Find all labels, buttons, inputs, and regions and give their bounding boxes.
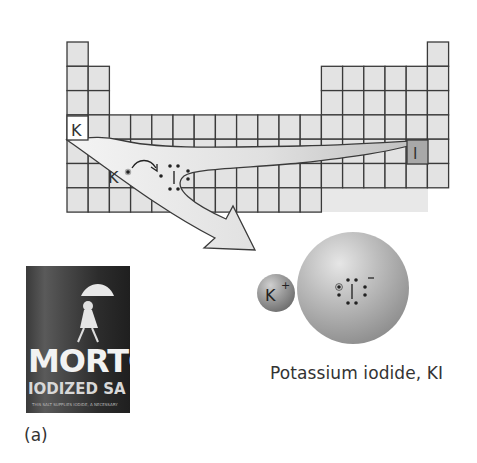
periodic-table-cell <box>67 42 88 66</box>
periodic-table-cell <box>385 66 406 90</box>
periodic-table-cell <box>385 164 406 188</box>
periodic-table-cell <box>364 66 385 90</box>
periodic-table-cell <box>364 115 385 139</box>
periodic-table-cell <box>343 164 364 188</box>
periodic-table-cell <box>385 115 406 139</box>
brand-subtitle: IODIZED SA <box>28 380 126 398</box>
periodic-table-cell <box>364 91 385 115</box>
periodic-table-cell <box>258 115 279 139</box>
element-symbol-K: K <box>71 121 82 140</box>
periodic-table-cell <box>343 91 364 115</box>
periodic-table-cell <box>427 164 448 188</box>
periodic-table-cell <box>88 188 109 212</box>
periodic-table-cell <box>67 188 88 212</box>
periodic-table-cell <box>427 66 448 90</box>
iodide-ion-sphere <box>297 232 409 344</box>
periodic-table-cell <box>364 164 385 188</box>
periodic-table-cell <box>343 115 364 139</box>
periodic-table-cell <box>343 66 364 90</box>
periodic-table-cell <box>321 91 342 115</box>
cation-symbol: K <box>265 286 276 305</box>
periodic-table-cell <box>194 115 215 139</box>
periodic-table-cell <box>152 115 173 139</box>
periodic-table-cell <box>300 188 321 212</box>
periodic-table-cell <box>406 66 427 90</box>
periodic-table-cell <box>406 91 427 115</box>
periodic-table-cell <box>215 115 236 139</box>
periodic-table-cell <box>67 91 88 115</box>
periodic-table-cell <box>88 91 109 115</box>
periodic-table-cell <box>300 115 321 139</box>
periodic-table-cell <box>131 115 152 139</box>
periodic-table-cell <box>258 188 279 212</box>
periodic-table-cell <box>88 115 109 139</box>
element-cell-I <box>407 140 428 164</box>
periodic-table-cell <box>406 164 427 188</box>
periodic-table-cell <box>279 188 300 212</box>
periodic-table-cell <box>67 164 88 188</box>
periodic-table-cell <box>406 115 427 139</box>
periodic-table-cell <box>385 91 406 115</box>
periodic-table-cell <box>321 164 342 188</box>
periodic-table-cell <box>109 188 130 212</box>
periodic-table-cell <box>321 66 342 90</box>
periodic-table-cell <box>258 164 279 188</box>
panel-label: (a) <box>24 425 48 445</box>
periodic-table-cell <box>300 164 321 188</box>
table-band <box>321 188 428 212</box>
periodic-table-cell <box>427 42 448 66</box>
periodic-table-cell <box>88 66 109 90</box>
periodic-table-cell <box>173 115 194 139</box>
figure-caption: Potassium iodide, KI <box>270 363 443 383</box>
periodic-table-cell <box>237 115 258 139</box>
cation-charge: + <box>281 279 290 292</box>
periodic-table-cell <box>279 164 300 188</box>
periodic-table-cell <box>237 188 258 212</box>
periodic-table-cell <box>109 115 130 139</box>
periodic-table-cell <box>279 115 300 139</box>
periodic-table-cell <box>427 139 448 163</box>
periodic-table-cell <box>427 115 448 139</box>
morton-salt-photo: MORTO IODIZED SA THIS SALT SUPPLIES IODI… <box>26 266 130 413</box>
ionic-bond-figure: K I K K + <box>0 0 477 463</box>
periodic-table-cells <box>67 42 449 212</box>
K-valence-electron <box>126 170 130 174</box>
element-symbol-I: I <box>413 145 417 163</box>
periodic-table-cell <box>427 91 448 115</box>
periodic-table-cell <box>321 115 342 139</box>
brand-name: MORTO <box>28 342 130 380</box>
periodic-table-cell <box>67 66 88 90</box>
fine-print: THIS SALT SUPPLIES IODIDE, A NECESSARY <box>32 402 118 407</box>
lewis-K-symbol: K <box>108 168 119 187</box>
